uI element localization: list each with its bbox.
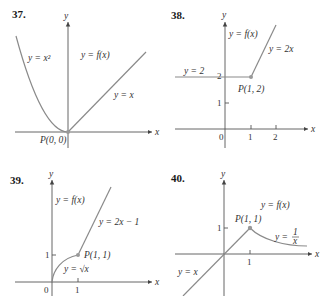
label-y-x: y = x	[177, 267, 198, 277]
label-y-2x-minus-1: y = 2x − 1	[98, 217, 139, 227]
y-axis-label: y	[220, 169, 226, 179]
x-tick-label-1: 1	[248, 132, 253, 142]
y-tick-label-2: 2	[217, 71, 222, 81]
point-p	[249, 75, 253, 79]
y-axis-label: y	[221, 10, 227, 20]
label-y-x-squared: y = x²	[27, 53, 51, 63]
x-axis-label: x	[154, 277, 160, 287]
point-label: P(1, 1)	[83, 250, 110, 261]
x-tick-label-1: 1	[247, 257, 252, 267]
problem-number-37: 37.	[12, 8, 26, 20]
problem-number-38: 38.	[171, 9, 185, 21]
graph-39: 39. y x 1 1 0 y = f(x) y = 2x − 1 y = √x…	[10, 169, 160, 296]
label-y-f-x: y = f(x)	[80, 50, 110, 61]
label-y-f-x: y = f(x)	[55, 195, 85, 206]
origin-label: 0	[44, 285, 49, 295]
graph-38: 38. y x 1 2 1 2 0 y = f(x) y = 2x y = 2 …	[171, 9, 316, 148]
label-y-2: y = 2	[183, 66, 204, 76]
figure-canvas: 37. y x y = x² y = f(x) y = x P(0, 0) 38…	[0, 0, 330, 296]
x-tick-label-2: 2	[273, 132, 278, 142]
point-label: P(1, 1)	[234, 214, 261, 225]
x-axis-label: x	[310, 124, 316, 134]
graph-37: 37. y x y = x² y = f(x) y = x P(0, 0)	[12, 8, 160, 148]
y-axis-label: y	[48, 169, 54, 179]
parabola-curve	[16, 36, 68, 132]
point-label: P(1, 2)	[237, 84, 264, 95]
line-y-equals-x	[68, 52, 146, 132]
label-y-x: y = x	[113, 90, 134, 100]
point-p	[66, 130, 70, 134]
y-axis-label: y	[63, 11, 69, 21]
label-y-f-x: y = f(x)	[228, 29, 258, 40]
line-y-equals-x	[183, 228, 250, 296]
graph-40: 40. y x 1 1 y = f(x) P(1, 1) y = 1 x y =…	[171, 169, 320, 296]
y-tick-label-1: 1	[217, 223, 222, 233]
label-y-2x: y = 2x	[268, 44, 294, 54]
label-y-sqrt-x: y = √x	[63, 264, 90, 274]
x-axis-label: x	[314, 249, 320, 259]
point-p	[76, 253, 80, 257]
origin-label: 0	[219, 132, 224, 142]
problem-number-40: 40.	[171, 172, 185, 184]
x-axis-label: x	[154, 127, 160, 137]
point-p	[248, 226, 252, 230]
x-tick-label-1: 1	[75, 285, 80, 295]
point-label: P(0, 0)	[39, 135, 66, 146]
label-y-one-over-x: y = 1 x	[274, 227, 299, 246]
frac-prefix: y =	[274, 232, 288, 242]
y-tick-label-1: 1	[45, 250, 50, 260]
frac-denominator: x	[292, 236, 298, 246]
label-y-f-x: y = f(x)	[260, 200, 290, 211]
y-tick-label-1: 1	[217, 98, 222, 108]
problem-number-39: 39.	[10, 174, 24, 186]
